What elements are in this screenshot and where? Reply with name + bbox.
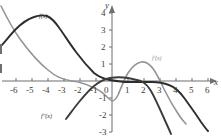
x-tick-6: 6 bbox=[205, 86, 210, 95]
edge-artifact-lower bbox=[0, 64, 2, 73]
x-tick--4: -4 bbox=[42, 86, 50, 95]
curve-f-double-prime bbox=[66, 77, 171, 134]
x-tick-3: 3 bbox=[157, 86, 162, 95]
curve-label-f: f(x) bbox=[39, 13, 47, 19]
x-tick--2: -2 bbox=[74, 86, 82, 95]
curve-label-f-double-prime: f''(x) bbox=[41, 113, 52, 119]
x-tick-2: 2 bbox=[141, 86, 146, 95]
y-tick-4: 4 bbox=[101, 9, 106, 18]
x-tick--5: -5 bbox=[26, 86, 34, 95]
x-tick-1: 1 bbox=[125, 86, 130, 95]
y-tick--3: -3 bbox=[99, 128, 107, 137]
curve-label-f-prime: f'(x) bbox=[152, 55, 162, 61]
y-axis bbox=[109, 5, 115, 132]
y-tick-1: 1 bbox=[101, 60, 106, 69]
y-tick-2: 2 bbox=[101, 43, 106, 52]
x-tick-4: 4 bbox=[173, 86, 178, 95]
x-tick--3: -3 bbox=[58, 86, 66, 95]
x-axis-label: x bbox=[214, 78, 218, 87]
x-tick--1: -1 bbox=[90, 86, 98, 95]
plot-canvas bbox=[0, 0, 221, 137]
y-axis-label: y bbox=[105, 1, 109, 10]
edge-artifact-upper bbox=[0, 44, 2, 54]
math-figure: -6 -5 -4 -3 -2 -1 0 1 2 3 4 5 6 4 3 2 1 … bbox=[0, 0, 221, 137]
x-tick-5: 5 bbox=[189, 86, 194, 95]
y-tick-3: 3 bbox=[101, 26, 106, 35]
y-tick--2: -2 bbox=[99, 111, 107, 120]
y-tick--1: -1 bbox=[99, 94, 107, 103]
x-tick--6: -6 bbox=[10, 86, 18, 95]
